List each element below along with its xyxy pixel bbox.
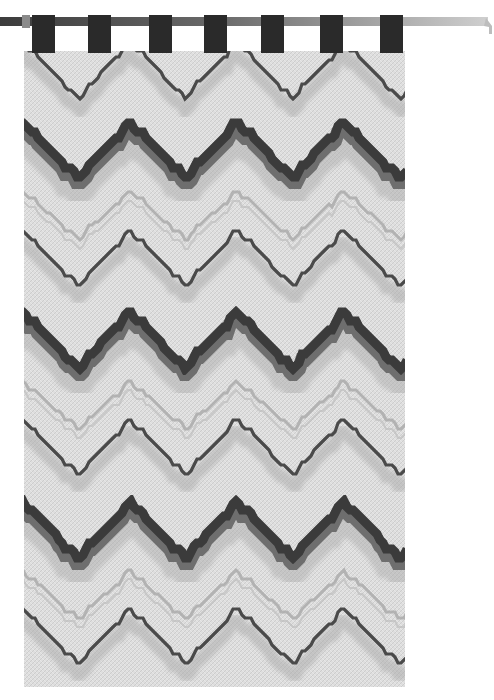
tab-1 bbox=[32, 15, 55, 53]
tab-6 bbox=[320, 15, 343, 53]
tab-7 bbox=[380, 15, 403, 53]
curtain-rod bbox=[0, 15, 492, 34]
tab-2 bbox=[88, 15, 111, 53]
rod-bracket bbox=[22, 15, 30, 28]
tab-5 bbox=[261, 15, 284, 53]
tab-4 bbox=[204, 15, 227, 53]
wall-hanging-photo bbox=[0, 0, 494, 700]
bargello-panel bbox=[20, 42, 407, 687]
tab-3 bbox=[149, 15, 172, 53]
